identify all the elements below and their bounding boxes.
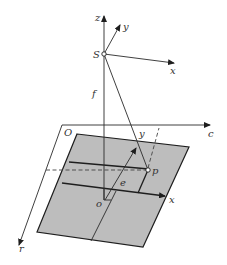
label-image-x: x [169,194,175,205]
label-camera-x: x [170,65,176,76]
label-axis-c: c [208,128,214,139]
image-plane-fill [37,134,189,247]
label-camera-y: y [122,21,129,32]
image-point-p [146,168,150,172]
label-e-axis: e [120,177,126,188]
label-camera-z: z [94,12,101,23]
projection-diagram: z y x S f O c r y x p o e [0,0,227,265]
image-plane [37,134,189,247]
label-image-point: p [152,165,159,176]
label-axis-r: r [19,243,25,254]
label-image-y: y [138,128,145,139]
camera-x-axis [104,54,174,63]
label-focal-length: f [91,88,98,99]
perspective-center-point [102,52,106,56]
label-perspective-center: S [93,49,100,60]
label-origin-ground: O [64,127,72,138]
camera-y-axis [104,25,120,54]
label-principal-point: o [96,198,102,209]
